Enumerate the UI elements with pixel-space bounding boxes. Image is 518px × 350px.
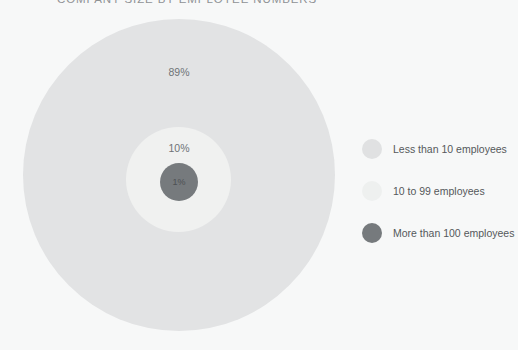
circle-swatch-icon [362, 223, 382, 243]
legend-item-more-than-100-employees[interactable]: More than 100 employees [362, 212, 518, 254]
bubble-label-less-than-10-employees: 89% [139, 66, 219, 78]
legend-item-10-to-99-employees[interactable]: 10 to 99 employees [362, 170, 518, 212]
legend-label-10-to-99-employees: 10 to 99 employees [393, 185, 485, 198]
chart-container: COMPANY SIZE BY EMPLOYEE NUMBERS 89% 10%… [0, 0, 518, 350]
bubble-label-10-to-99-employees: 10% [149, 142, 209, 154]
chart-legend: Less than 10 employees 10 to 99 employee… [362, 128, 518, 254]
legend-label-less-than-10-employees: Less than 10 employees [393, 143, 507, 156]
circle-swatch-icon [362, 181, 382, 201]
legend-item-less-than-10-employees[interactable]: Less than 10 employees [362, 128, 518, 170]
legend-label-more-than-100-employees: More than 100 employees [393, 227, 514, 240]
bubble-label-more-than-100-employees: 1% [159, 176, 199, 188]
circle-swatch-icon [362, 139, 382, 159]
bubble-plot-area: 89% 10% 1% [0, 0, 360, 350]
